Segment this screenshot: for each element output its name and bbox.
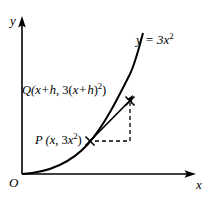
point-q-var-x: x (35, 83, 41, 97)
point-p-marker (86, 137, 95, 146)
point-p-prefix: P ( (35, 133, 50, 147)
point-q-separator: , 3( (56, 83, 73, 97)
curve-equation-exponent: 2 (169, 31, 173, 41)
x-axis (22, 170, 196, 178)
point-p-suffix: ) (78, 133, 82, 147)
point-q-prefix: Q( (22, 83, 35, 97)
math-figure-svg (0, 0, 212, 207)
point-q-plus: + (41, 83, 50, 97)
parabola-curve (22, 33, 143, 174)
origin-label: O (9, 176, 18, 189)
point-q-suffix: ) (102, 83, 106, 97)
figure-container: y x O y = 3x2 Q(x+h, 3(x+h)2) P (x, 3x2) (0, 0, 212, 207)
point-q-label: Q(x+h, 3(x+h)2) (22, 82, 106, 97)
curve-equation-label: y = 3x2 (136, 32, 174, 46)
y-axis-label: y (10, 14, 16, 27)
x-axis-label: x (196, 178, 202, 191)
point-p-separator: , 3 (55, 133, 68, 147)
curve-equation-text: y = 3x (136, 32, 169, 47)
point-p-label: P (x, 3x2) (35, 132, 82, 147)
secant-line-pq (89, 100, 132, 143)
